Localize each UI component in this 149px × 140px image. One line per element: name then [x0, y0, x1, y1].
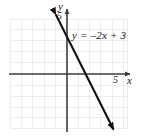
coordinate-plane [0, 0, 149, 140]
x-axis-label: x [127, 75, 132, 86]
y-axis-tick-label-5: 5 [57, 11, 62, 21]
graph-figure: y 5 x 5 y = –2x + 3 [0, 0, 149, 140]
x-axis-tick-label-5: 5 [113, 75, 118, 85]
equation-annotation: y = –2x + 3 [72, 30, 126, 41]
